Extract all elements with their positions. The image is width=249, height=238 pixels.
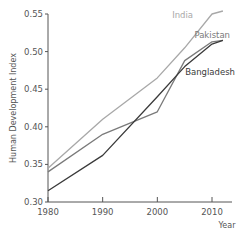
y-tick-label: 0.45 [24,84,43,94]
x-tick-label: 1990 [92,207,114,217]
y-tick-label: 0.35 [24,159,43,169]
y-tick-label: 0.50 [24,47,43,57]
x-tick-label: 1980 [37,207,59,217]
series-label-pakistan: Pakistan [194,30,230,40]
x-tick-label: 2000 [147,207,169,217]
series-line-pakistan [48,40,223,172]
series-line-bangladesh [48,40,223,190]
y-axis-title: Human Development Index [9,53,18,163]
series-label-india: India [172,10,193,20]
y-tick-label: 0.40 [24,122,43,132]
y-tick-label: 0.55 [24,9,43,19]
series-label-bangladesh: Bangladesh [185,67,235,77]
x-tick-label: 2010 [201,207,223,217]
hdi-line-chart: 0.300.350.400.450.500.551980199020002010… [0,0,249,238]
y-tick-label: 0.30 [24,197,43,207]
x-axis-title: Year [218,221,237,230]
